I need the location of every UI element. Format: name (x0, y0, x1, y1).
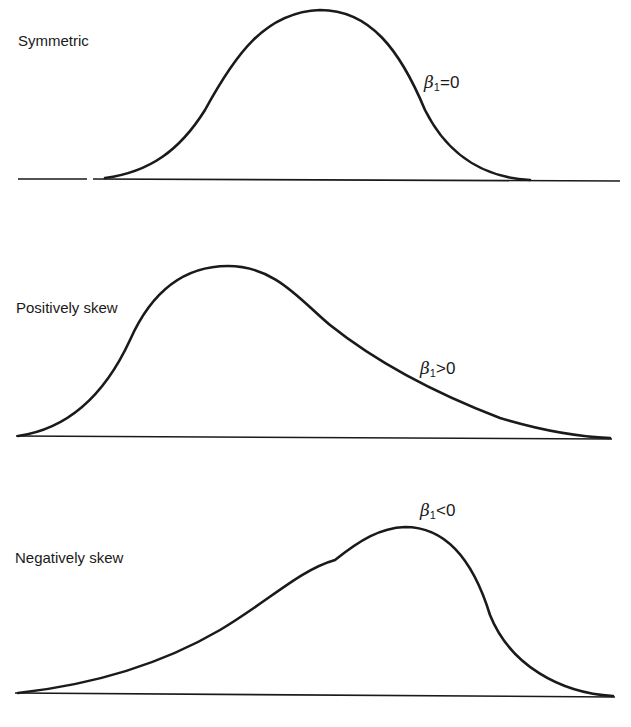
positive-skew-panel-graphic (16, 266, 612, 439)
beta-symbol: β (420, 358, 430, 378)
positive-skew-beta-annotation: β1>0 (420, 358, 455, 379)
beta-relation: < (436, 501, 446, 520)
symmetric-title: Symmetric (18, 32, 89, 49)
beta-value: 0 (446, 359, 455, 378)
beta-relation: > (436, 359, 446, 378)
symmetric-beta-annotation: β1=0 (424, 72, 459, 93)
beta-value: 0 (446, 501, 455, 520)
beta-symbol: β (420, 500, 430, 520)
skewness-diagram: Symmetric Positively skew Negatively ske… (0, 0, 631, 727)
negative-skew-title: Negatively skew (15, 549, 123, 566)
negative-skew-baseline (15, 693, 615, 697)
symmetric-panel-graphic (18, 10, 620, 181)
negative-skew-beta-annotation: β1<0 (420, 500, 455, 521)
symmetric-curve (105, 10, 530, 180)
beta-symbol: β (424, 72, 434, 92)
positive-skew-curve (18, 266, 610, 438)
beta-relation: = (440, 73, 450, 92)
positive-skew-title: Positively skew (16, 299, 118, 316)
curves-canvas (0, 0, 631, 727)
beta-value: 0 (450, 73, 459, 92)
positive-skew-baseline (16, 436, 612, 439)
